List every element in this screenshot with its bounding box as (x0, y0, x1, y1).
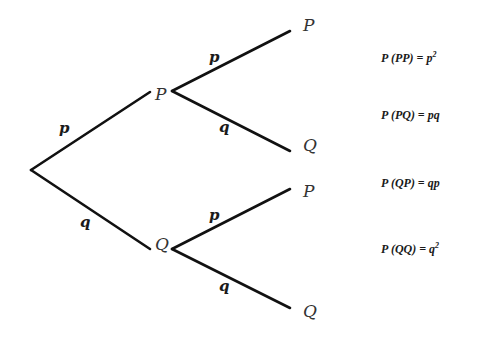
branch-Q-to-P (172, 189, 290, 249)
outcome-QP: P (QP) = qp (381, 176, 440, 189)
branch-Q-to-Q (172, 249, 290, 308)
outcome-PP: P (PP) = p2 (381, 51, 436, 64)
edge-label-P-Q: q (219, 120, 230, 135)
leaf-P-1: P (303, 17, 314, 34)
branch-P-to-Q (172, 91, 290, 151)
node-Q-level1: Q (155, 236, 169, 253)
edge-label-Q-Q: q (219, 279, 230, 294)
node-P-level1: P (155, 86, 166, 103)
edge-label-P-P: p (209, 50, 220, 65)
edge-label-root-Q: q (80, 215, 91, 230)
branch-root-to-Q (31, 170, 150, 249)
edge-label-root-P: p (59, 121, 70, 136)
branch-P-to-P (172, 31, 290, 91)
leaf-Q-2: Q (303, 303, 317, 320)
leaf-P-2: P (303, 183, 314, 200)
outcome-PQ: P (PQ) = pq (381, 108, 440, 121)
edge-label-Q-P: p (209, 208, 220, 223)
branch-root-to-P (31, 92, 150, 170)
leaf-Q-1: Q (303, 137, 317, 154)
probability-tree-diagram: P Q P Q P Q p q p q p q P (PP) = p2 P (P… (0, 0, 482, 340)
outcome-QQ: P (QQ) = q2 (381, 242, 439, 255)
